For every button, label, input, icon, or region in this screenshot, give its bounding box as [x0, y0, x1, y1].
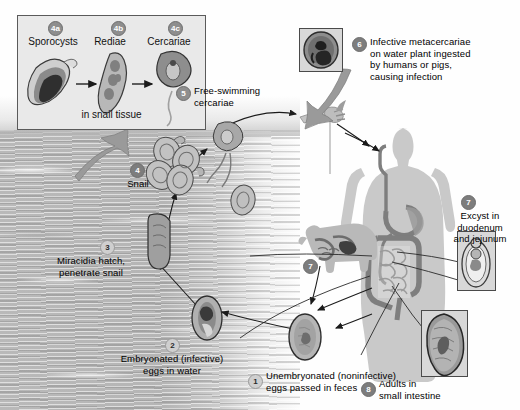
- label-in-snail-tissue: in snail tissue: [18, 109, 205, 120]
- badge-stage-7: 7: [461, 195, 476, 210]
- caption-stage-7-line3: and jejunum: [454, 233, 507, 244]
- caption-stage-8: Adults in small intestine: [379, 378, 489, 401]
- caption-stage-5-line2: cercariae: [194, 97, 234, 108]
- caption-stage-7: Excyst in duodenum and jejunum: [443, 210, 517, 245]
- caption-stage-6-line1: Infective metacercariae: [370, 36, 471, 47]
- caption-stage-2-line1: Embryonated (infective): [121, 353, 224, 364]
- caption-stage-8-line1: Adults in: [379, 378, 416, 389]
- badge-stage-5: 5: [176, 86, 191, 101]
- caption-stage-5-line1: Free-swimming: [194, 85, 260, 96]
- embryonated-egg: [192, 296, 222, 340]
- caption-stage-3-line1: Miracidia hatch,: [57, 255, 125, 266]
- caption-stage-3: Miracidia hatch, penetrate snail: [36, 255, 146, 278]
- miracidium: [148, 214, 170, 269]
- caption-stage-4: Snail: [110, 178, 166, 190]
- caption-stage-5: Free-swimming cercariae: [194, 85, 304, 108]
- caption-stage-2: Embryonated (infective) eggs in water: [98, 353, 246, 376]
- badge-stage-2: 2: [165, 338, 180, 353]
- badge-stage-6: 6: [352, 37, 367, 52]
- caption-stage-6: Infective metacercariae on water plant i…: [370, 36, 520, 82]
- sporocyst-micrograph: [28, 59, 77, 105]
- badge-stage-1: 1: [248, 374, 263, 389]
- badge-stage-8: 8: [361, 382, 376, 397]
- badge-stage-7-pig-marker: 7: [303, 259, 318, 274]
- unembryonated-egg: [289, 314, 321, 360]
- snail-single: [229, 183, 258, 217]
- in-snail-tissue-panel: 4a 4b 4c Sporocysts Rediae Cercariae: [17, 15, 206, 130]
- life-cycle-diagram: 4a 4b 4c Sporocysts Rediae Cercariae: [0, 0, 520, 410]
- caption-stage-6-line4: causing infection: [370, 71, 442, 82]
- caption-stage-3-line2: penetrate snail: [59, 267, 123, 278]
- caption-stage-6-line2: on water plant ingested: [370, 48, 471, 59]
- caption-stage-2-line2: eggs in water: [143, 365, 201, 376]
- redia-micrograph: [98, 53, 126, 113]
- caption-stage-7-line1: Excyst in: [461, 210, 500, 221]
- caption-stage-1-line1: Unembryonated (noninfective): [266, 370, 396, 381]
- adult-fluke-micrograph-box: [421, 310, 468, 377]
- caption-stage-6-line3: by humans or pigs,: [370, 59, 452, 70]
- badge-stage-3: 3: [100, 240, 115, 255]
- caption-stage-1-line2: eggs passed in feces: [266, 382, 357, 393]
- free-swimming-cercaria: [207, 122, 243, 187]
- metacercaria-micrograph-box: [299, 28, 343, 72]
- badge-stage-4: 4: [130, 163, 145, 178]
- caption-stage-7-line2: duodenum: [457, 222, 503, 233]
- caption-stage-8-line2: small intestine: [379, 390, 441, 401]
